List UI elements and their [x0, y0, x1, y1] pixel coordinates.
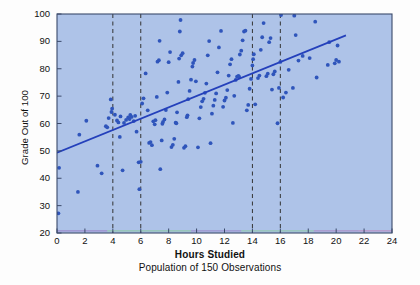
x-tick-label: 16: [267, 235, 293, 246]
x-tick-label: 6: [128, 235, 154, 246]
x-tick-label: 12: [212, 235, 238, 246]
x-tick-label: 10: [184, 235, 210, 246]
chart-subtitle: Population of 150 Observations: [0, 262, 420, 273]
y-axis-title: Grade Out of 100: [19, 63, 30, 193]
x-tick-label: 24: [379, 235, 405, 246]
x-axis-title: Hours Studied: [0, 249, 420, 260]
x-tick-label: 2: [72, 235, 98, 246]
x-tick-label: 14: [239, 235, 265, 246]
plot-area-background: [57, 14, 392, 233]
y-tick-label: 20: [24, 227, 50, 238]
y-tick-label: 90: [24, 35, 50, 46]
y-tick-label: 100: [24, 8, 50, 19]
y-tick-label: 30: [24, 200, 50, 211]
x-tick-label: 22: [351, 235, 377, 246]
x-tick-label: 20: [323, 235, 349, 246]
x-tick-label: 4: [100, 235, 126, 246]
x-tick-label: 8: [156, 235, 182, 246]
x-tick-label: 18: [295, 235, 321, 246]
scatter-plot-figure: 024681012141618202224 203040506070809010…: [0, 0, 420, 285]
